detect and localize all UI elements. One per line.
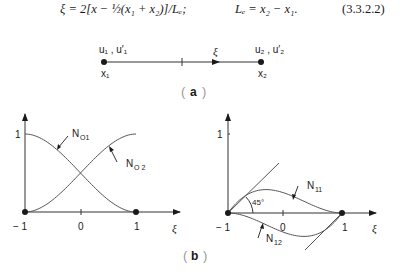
caption-b-close-paren: ) (203, 248, 207, 263)
caption-b-open-paren: ( (183, 248, 188, 263)
left-node-plus1 (133, 209, 139, 215)
right-x-tick-0: 0 (280, 222, 286, 233)
left-node-minus1 (22, 209, 28, 215)
caption-a-close-paren: ) (202, 84, 206, 99)
left-y-tick-1: 1 (15, 129, 21, 140)
n02-subscript: O 2 (134, 164, 145, 171)
figure-a: u₁ , u′₁ u₂ , u′₂ x₁ x₂ ξ ( a ) (99, 44, 284, 99)
left-x-tick-minus1: − 1 (13, 221, 28, 232)
n02-leader (111, 150, 117, 162)
curve-N11 (228, 190, 342, 213)
left-x-tick-1: 1 (134, 221, 140, 232)
angle-label: 45° (252, 198, 264, 207)
node1-label: x₁ (101, 68, 110, 79)
n02-label: N (126, 158, 133, 169)
n12-label: N (266, 233, 273, 244)
xi-label-a: ξ (213, 45, 218, 58)
left-x-tick-0: 0 (78, 221, 84, 232)
n11-subscript: 11 (315, 186, 322, 193)
figure-canvas: u₁ , u′₁ u₂ , u′₂ x₁ x₂ ξ ( a ) 1 − 1 0 … (0, 0, 403, 275)
caption-b: b (191, 249, 198, 263)
xi-direction-arrow (212, 59, 220, 65)
n02-leader-arrowhead (109, 146, 114, 152)
node2-dofs: u₂ , u′₂ (255, 44, 284, 55)
left-xi-label: ξ (172, 222, 177, 235)
caption-a-open-paren: ( (181, 84, 186, 99)
node1-dofs: u₁ , u′₁ (99, 44, 128, 55)
n01-label: N (72, 128, 79, 139)
n11-label: N (307, 180, 314, 191)
right-x-tick-1: 1 (342, 222, 348, 233)
node-2 (258, 59, 264, 65)
plot-left: 1 − 1 0 1 ξ N O1 N O 2 (13, 114, 180, 235)
plot-right: 1 − 1 0 1 ξ 45° N 11 N 12 (216, 114, 377, 250)
n12-subscript: 12 (274, 239, 282, 246)
right-node-plus1 (339, 210, 345, 216)
node-1 (101, 59, 107, 65)
right-xi-label: ξ (372, 222, 377, 235)
n01-subscript: O1 (80, 134, 89, 141)
caption-a: a (190, 85, 197, 99)
right-node-minus1 (225, 210, 231, 216)
right-x-tick-minus1: − 1 (216, 222, 231, 233)
right-y-tick-1: 1 (217, 129, 223, 140)
node2-label: x₂ (258, 68, 267, 79)
curve-N02 (25, 134, 136, 212)
